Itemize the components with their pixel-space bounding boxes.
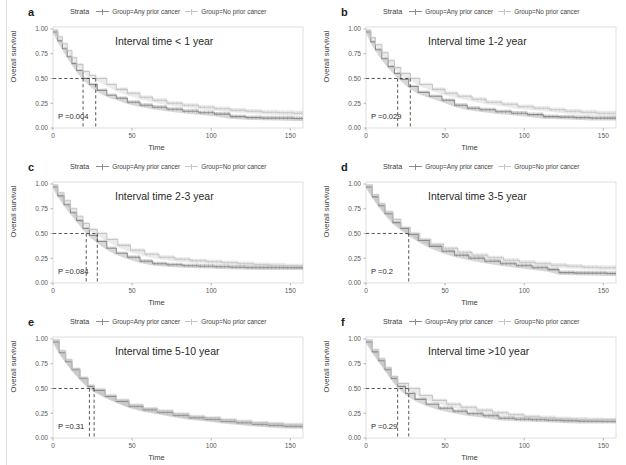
plot-area-e: 0.000.250.500.751.00050100150	[0, 310, 313, 465]
x-tick-label: 100	[519, 132, 530, 139]
x-tick-label: 150	[598, 132, 609, 139]
y-tick-label: 1.00	[35, 180, 48, 187]
x-tick-label: 150	[285, 287, 296, 294]
x-tick-label: 100	[206, 132, 217, 139]
pvalue-label-f: P =0.29	[371, 422, 397, 431]
y-tick-label: 0.50	[35, 230, 48, 237]
y-tick-label: 1.00	[348, 25, 361, 32]
pvalue-label-b: P =0.029	[371, 112, 401, 121]
panel-title-b: Interval time 1-2 year	[428, 35, 527, 47]
y-tick-label: 0.00	[35, 124, 48, 131]
y-axis-title: Overall survival	[9, 332, 18, 402]
plot-area-b: 0.000.250.500.751.00050100150	[313, 0, 626, 155]
panel-b: bStrataGroup=Any prior cancerGroup=No pr…	[313, 0, 626, 155]
x-tick-label: 50	[128, 442, 136, 449]
y-tick-label: 0.00	[35, 434, 48, 441]
x-axis-title: Time	[0, 298, 313, 307]
y-tick-label: 0.25	[348, 255, 361, 262]
y-tick-label: 0.25	[348, 410, 361, 417]
x-axis-title: Time	[313, 453, 626, 462]
pvalue-label-d: P =0.2	[371, 267, 393, 276]
y-tick-label: 1.00	[348, 335, 361, 342]
y-tick-label: 1.00	[348, 180, 361, 187]
x-tick-label: 150	[598, 287, 609, 294]
panel-title-a: Interval time < 1 year	[115, 35, 213, 47]
x-tick-label: 150	[285, 442, 296, 449]
panel-title-f: Interval time >10 year	[428, 345, 529, 357]
y-tick-label: 0.00	[348, 124, 361, 131]
panel-a: aStrataGroup=Any prior cancerGroup=No pr…	[0, 0, 313, 155]
y-tick-label: 0.75	[348, 205, 361, 212]
y-tick-label: 0.50	[348, 385, 361, 392]
x-tick-label: 0	[364, 442, 368, 449]
panel-title-e: Interval time 5-10 year	[115, 345, 219, 357]
plot-area-f: 0.000.250.500.751.00050100150	[313, 310, 626, 465]
panel-f: fStrataGroup=Any prior cancerGroup=No pr…	[313, 310, 626, 465]
y-tick-label: 0.00	[348, 434, 361, 441]
x-tick-label: 100	[519, 287, 530, 294]
y-axis-title: Overall survival	[9, 177, 18, 247]
y-tick-label: 0.75	[348, 50, 361, 57]
y-tick-label: 0.75	[348, 360, 361, 367]
plot-area-c: 0.000.250.500.751.00050100150	[0, 155, 313, 310]
figure-page: aStrataGroup=Any prior cancerGroup=No pr…	[0, 0, 626, 465]
x-tick-label: 0	[51, 287, 55, 294]
panel-c: cStrataGroup=Any prior cancerGroup=No pr…	[0, 155, 313, 310]
y-tick-label: 1.00	[35, 335, 48, 342]
x-axis-title: Time	[313, 143, 626, 152]
y-tick-label: 0.50	[348, 230, 361, 237]
x-tick-label: 50	[441, 287, 449, 294]
pvalue-label-a: P =0.004	[58, 112, 88, 121]
y-tick-label: 0.50	[348, 75, 361, 82]
x-axis-title: Time	[313, 298, 626, 307]
x-tick-label: 50	[441, 132, 449, 139]
plot-area-d: 0.000.250.500.751.00050100150	[313, 155, 626, 310]
y-axis-title: Overall survival	[9, 22, 18, 92]
y-tick-label: 0.25	[35, 410, 48, 417]
x-tick-label: 50	[128, 132, 136, 139]
y-tick-label: 0.75	[35, 205, 48, 212]
y-tick-label: 0.25	[348, 100, 361, 107]
plot-area-a: 0.000.250.500.751.00050100150	[0, 0, 313, 155]
x-axis-title: Time	[0, 453, 313, 462]
y-axis-title: Overall survival	[322, 22, 331, 92]
x-tick-label: 100	[206, 442, 217, 449]
y-tick-label: 0.75	[35, 360, 48, 367]
y-tick-label: 0.25	[35, 255, 48, 262]
x-tick-label: 0	[364, 132, 368, 139]
y-tick-label: 0.50	[35, 75, 48, 82]
y-axis-title: Overall survival	[322, 332, 331, 402]
y-tick-label: 0.50	[35, 385, 48, 392]
x-tick-label: 100	[519, 442, 530, 449]
x-tick-label: 0	[51, 132, 55, 139]
y-axis-title: Overall survival	[322, 177, 331, 247]
y-tick-label: 0.25	[35, 100, 48, 107]
x-tick-label: 0	[364, 287, 368, 294]
x-tick-label: 50	[441, 442, 449, 449]
x-axis-title: Time	[0, 143, 313, 152]
x-tick-label: 150	[285, 132, 296, 139]
y-tick-label: 0.75	[35, 50, 48, 57]
panel-grid: aStrataGroup=Any prior cancerGroup=No pr…	[0, 0, 626, 465]
panel-d: dStrataGroup=Any prior cancerGroup=No pr…	[313, 155, 626, 310]
x-tick-label: 0	[51, 442, 55, 449]
panel-title-c: Interval time 2-3 year	[115, 190, 214, 202]
panel-title-d: Interval time 3-5 year	[428, 190, 527, 202]
panel-e: eStrataGroup=Any prior cancerGroup=No pr…	[0, 310, 313, 465]
y-tick-label: 0.00	[35, 279, 48, 286]
x-tick-label: 150	[598, 442, 609, 449]
pvalue-label-e: P =0.31	[58, 422, 84, 431]
x-tick-label: 100	[206, 287, 217, 294]
pvalue-label-c: P =0.084	[58, 267, 88, 276]
x-tick-label: 50	[128, 287, 136, 294]
y-tick-label: 1.00	[35, 25, 48, 32]
y-tick-label: 0.00	[348, 279, 361, 286]
